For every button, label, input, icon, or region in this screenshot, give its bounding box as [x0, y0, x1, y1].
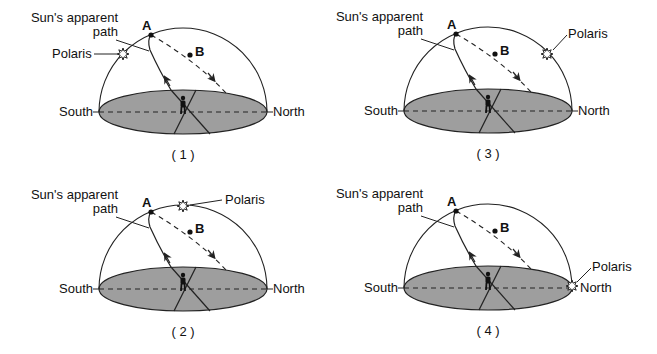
panel-4[interactable]: ABSouthNorthSun's apparentpathPolaris( 4…: [336, 186, 632, 338]
panel-caption[interactable]: ( 4 ): [476, 323, 499, 338]
panel-caption[interactable]: ( 3 ): [476, 146, 499, 161]
sun-path-leader-line: [116, 217, 149, 228]
polaris-leader-line: [190, 200, 222, 205]
panel-1[interactable]: ABSouthNorthSun's apparentpathPolaris( 1…: [31, 10, 305, 162]
sun-path-label-line2: path: [93, 201, 118, 216]
polaris-label: Polaris: [568, 26, 608, 41]
south-label: South: [364, 103, 398, 118]
panel-3[interactable]: ABSouthNorthSun's apparentpathPolaris( 3…: [336, 9, 610, 161]
sun-path-label-line2: path: [398, 23, 423, 38]
south-label: South: [364, 280, 398, 295]
sun-path-label-line1: Sun's apparent: [336, 9, 423, 24]
point-b-dot: [187, 229, 192, 234]
point-a-dot: [148, 209, 153, 214]
point-a-dot: [453, 208, 458, 213]
sun-path-label-line1: Sun's apparent: [31, 10, 118, 25]
point-b-dot: [492, 228, 497, 233]
south-label: South: [59, 281, 93, 296]
sun-path-dashed: [456, 211, 531, 269]
point-b-label: B: [500, 43, 509, 58]
point-b-dot: [187, 52, 192, 57]
panel-caption[interactable]: ( 2 ): [171, 324, 194, 339]
polaris-leader-line: [553, 35, 567, 50]
north-label: North: [580, 280, 612, 295]
sun-path-label-line1: Sun's apparent: [31, 187, 118, 202]
polaris-label: Polaris: [52, 46, 92, 61]
point-a-label: A: [447, 194, 457, 209]
point-a-label: A: [142, 195, 152, 210]
sun-path-label-line2: path: [93, 24, 118, 39]
polaris-label: Polaris: [225, 192, 265, 207]
north-label: North: [273, 104, 305, 119]
polaris-star-icon: [117, 48, 129, 60]
sun-path-dashed: [151, 35, 226, 93]
panel-caption[interactable]: ( 1 ): [171, 147, 194, 162]
point-b-label: B: [195, 44, 204, 59]
sun-path-leader-line: [421, 216, 454, 227]
north-label: North: [578, 103, 610, 118]
sun-path-label-line2: path: [398, 200, 423, 215]
polaris-star-icon: [566, 280, 578, 292]
point-a-dot: [148, 32, 153, 37]
diagram-canvas: ABSouthNorthSun's apparentpathPolaris( 1…: [0, 0, 657, 354]
sun-path-leader-line: [421, 39, 454, 50]
sun-path-dashed: [456, 34, 531, 92]
polaris-star-icon: [541, 48, 553, 60]
point-b-label: B: [195, 221, 204, 236]
point-b-dot: [492, 51, 497, 56]
sun-path-dashed: [151, 212, 226, 270]
polaris-label: Polaris: [592, 259, 632, 274]
sun-path-leader-line: [116, 40, 149, 51]
sun-path-label-line1: Sun's apparent: [336, 186, 423, 201]
polaris-star-icon: [177, 200, 189, 212]
panel-2[interactable]: ABSouthNorthSun's apparentpathPolaris( 2…: [31, 187, 305, 339]
point-a-label: A: [447, 17, 457, 32]
north-label: North: [273, 281, 305, 296]
point-b-label: B: [500, 220, 509, 235]
point-a-dot: [453, 31, 458, 36]
south-label: South: [59, 104, 93, 119]
point-a-label: A: [142, 18, 152, 33]
